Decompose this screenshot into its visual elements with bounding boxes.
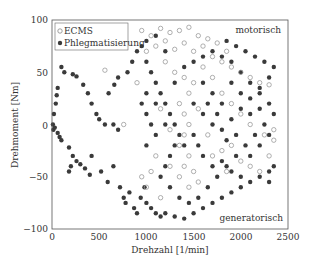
ecms-point (191, 169, 195, 173)
phlegmatisierung-point (173, 143, 177, 147)
phlegmatisierung-point (140, 101, 144, 105)
phlegmatisierung-point (158, 214, 162, 218)
ecms-point (177, 28, 181, 32)
phlegmatisierung-point (163, 211, 167, 215)
phlegmatisierung-point (118, 185, 122, 189)
phlegmatisierung-point (224, 39, 228, 43)
ecms-point (158, 107, 162, 111)
phlegmatisierung-point (258, 143, 262, 147)
legend-label-ecms: ECMS (64, 26, 93, 36)
ecms-point (210, 75, 214, 79)
ecms-point (220, 148, 224, 152)
phlegmatisierung-point (258, 86, 262, 90)
ecms-point (187, 154, 191, 158)
ecms-point (267, 83, 271, 87)
phlegmatisierung-point (234, 44, 238, 48)
phlegmatisierung-point (154, 211, 158, 215)
phlegmatisierung-point (220, 101, 224, 105)
phlegmatisierung-point (154, 34, 158, 38)
ecms-point (177, 143, 181, 147)
ecms-point (173, 70, 177, 74)
ecms-point (168, 164, 172, 168)
ecms-point (182, 75, 186, 79)
phlegmatisierung-point (177, 133, 181, 137)
phlegmatisierung-point (215, 112, 219, 116)
ecms-point (149, 34, 153, 38)
phlegmatisierung-point (258, 175, 262, 179)
phlegmatisierung-point (272, 112, 276, 116)
ecms-point (158, 26, 162, 30)
phlegmatisierung-point (123, 201, 127, 205)
scatter-chart: 100 50 0 −50 −100 0 500 1000 1500 2000 2… (0, 0, 312, 266)
ecms-point (191, 81, 195, 85)
phlegmatisierung-point (229, 117, 233, 121)
phlegmatisierung-point (69, 164, 73, 168)
phlegmatisierung-point (89, 154, 93, 158)
phlegmatisierung-point (210, 49, 214, 53)
phlegmatisierung-point (144, 91, 148, 95)
ecms-point (154, 154, 158, 158)
phlegmatisierung-point (94, 112, 98, 116)
ecms-point (187, 185, 191, 189)
phlegmatisierung-point (144, 112, 148, 116)
y-tick-label: 0 (42, 121, 48, 131)
annotation-generatorisch: generatorisch (219, 213, 283, 223)
annotation-motorisch: motorisch (235, 25, 281, 35)
ecms-point (154, 44, 158, 48)
phlegmatisierung-point (149, 206, 153, 210)
phlegmatisierung-point (201, 81, 205, 85)
phlegmatisierung-point (62, 70, 66, 74)
phlegmatisierung-point (220, 196, 224, 200)
ecms-point (258, 81, 262, 85)
phlegmatisierung-point (86, 91, 90, 95)
phlegmatisierung-point (74, 159, 78, 163)
phlegmatisierung-point (191, 133, 195, 137)
phlegmatisierung-point (248, 81, 252, 85)
phlegmatisierung-point (201, 112, 205, 116)
ecms-point (163, 39, 167, 43)
ecms-point (168, 30, 172, 34)
phlegmatisierung-point (135, 49, 139, 53)
ecms-point (210, 154, 214, 158)
ecms-point (224, 169, 228, 173)
phlegmatisierung-point (210, 122, 214, 126)
ecms-point (187, 122, 191, 126)
phlegmatisierung-point (210, 91, 214, 95)
phlegmatisierung-point (59, 138, 63, 142)
phlegmatisierung-point (173, 122, 177, 126)
phlegmatisierung-point (229, 169, 233, 173)
phlegmatisierung-point (248, 180, 252, 184)
ecms-point (210, 54, 214, 58)
phlegmatisierung-point (262, 60, 266, 64)
phlegmatisierung-point (224, 164, 228, 168)
phlegmatisierung-point (201, 206, 205, 210)
phlegmatisierung-point (173, 81, 177, 85)
phlegmatisierung-point (149, 70, 153, 74)
phlegmatisierung-point (144, 39, 148, 43)
ecms-point (168, 128, 172, 132)
ecms-point (196, 180, 200, 184)
phlegmatisierung-point (191, 101, 195, 105)
phlegmatisierung-point (111, 164, 115, 168)
phlegmatisierung-point (168, 185, 172, 189)
phlegmatisierung-point (112, 83, 116, 87)
y-tick-label: 50 (37, 68, 49, 78)
ecms-point (196, 107, 200, 111)
phlegmatisierung-point (220, 159, 224, 163)
ecms-point (173, 47, 177, 51)
phlegmatisierung-point (71, 154, 75, 158)
phlegmatisierung-point (248, 154, 252, 158)
ecms-point (248, 122, 252, 126)
phlegmatisierung-point (158, 175, 162, 179)
ecms-point (229, 143, 233, 147)
data-points (51, 25, 276, 221)
ecms-point (267, 154, 271, 158)
ecms-point (144, 49, 148, 53)
phlegmatisierung-point (135, 211, 139, 215)
x-axis-label: Drehzahl [1/min] (131, 245, 208, 255)
ecms-point (248, 164, 252, 168)
ecms-point (201, 44, 205, 48)
phlegmatisierung-point (220, 54, 224, 58)
phlegmatisierung-point (154, 81, 158, 85)
phlegmatisierung-point (220, 128, 224, 132)
